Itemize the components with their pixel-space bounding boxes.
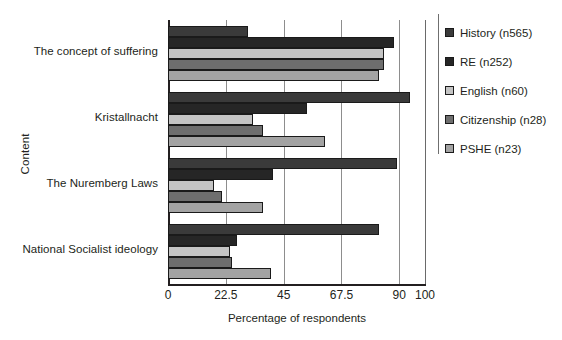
- legend-item[interactable]: PSHE (n23): [445, 134, 562, 163]
- category-label: National Socialist ideology: [0, 243, 158, 255]
- legend: History (n565)RE (n252)English (n60)Citi…: [445, 18, 562, 163]
- bar-chart: Content The concept of sufferingKristall…: [0, 0, 562, 340]
- bar: [168, 92, 410, 103]
- x-tick-label: 90: [393, 288, 406, 302]
- legend-label: History (n565): [460, 27, 532, 39]
- bar-group: [168, 152, 425, 218]
- category-label: Kristallnacht: [0, 111, 158, 123]
- bar-group: [168, 218, 425, 284]
- bar: [168, 169, 273, 180]
- x-tick-label: 100: [415, 288, 435, 302]
- bar: [168, 114, 253, 125]
- legend-item[interactable]: History (n565): [445, 18, 562, 47]
- legend-label: PSHE (n23): [460, 143, 521, 155]
- legend-label: Citizenship (n28): [460, 114, 546, 126]
- legend-swatch-icon: [445, 86, 454, 95]
- bar: [168, 158, 397, 169]
- legend-item[interactable]: Citizenship (n28): [445, 105, 562, 134]
- x-tick-label: 0: [165, 288, 172, 302]
- bar: [168, 268, 271, 279]
- bar: [168, 59, 384, 70]
- legend-item[interactable]: RE (n252): [445, 47, 562, 76]
- bar: [168, 136, 325, 147]
- bar: [168, 224, 379, 235]
- bar-group: [168, 86, 425, 152]
- x-axis-line: [168, 284, 426, 286]
- x-axis-tick-labels: 022.54567.590100: [0, 288, 562, 306]
- legend-label: English (n60): [460, 85, 528, 97]
- bar: [168, 103, 307, 114]
- bar: [168, 37, 394, 48]
- bar: [168, 191, 222, 202]
- gridline: [425, 20, 426, 284]
- bar: [168, 257, 232, 268]
- legend-divider: [438, 14, 439, 154]
- x-tick-label: 22.5: [214, 288, 237, 302]
- legend-swatch-icon: [445, 57, 454, 66]
- x-tick-label: 45: [277, 288, 290, 302]
- bar: [168, 180, 214, 191]
- x-tick-label: 67.5: [330, 288, 353, 302]
- x-axis-title: Percentage of respondents: [168, 312, 426, 324]
- bar: [168, 48, 384, 59]
- bar-group: [168, 20, 425, 86]
- bar: [168, 246, 230, 257]
- legend-swatch-icon: [445, 115, 454, 124]
- category-label: The concept of suffering: [0, 45, 158, 57]
- category-label: The Nuremberg Laws: [0, 177, 158, 189]
- bar: [168, 70, 379, 81]
- bar: [168, 125, 263, 136]
- legend-item[interactable]: English (n60): [445, 76, 562, 105]
- bar: [168, 202, 263, 213]
- legend-swatch-icon: [445, 28, 454, 37]
- bar: [168, 26, 248, 37]
- legend-swatch-icon: [445, 144, 454, 153]
- category-label-group: The concept of sufferingKristallnachtThe…: [0, 20, 163, 284]
- bar: [168, 235, 237, 246]
- legend-label: RE (n252): [460, 56, 512, 68]
- plot-area: [168, 20, 425, 284]
